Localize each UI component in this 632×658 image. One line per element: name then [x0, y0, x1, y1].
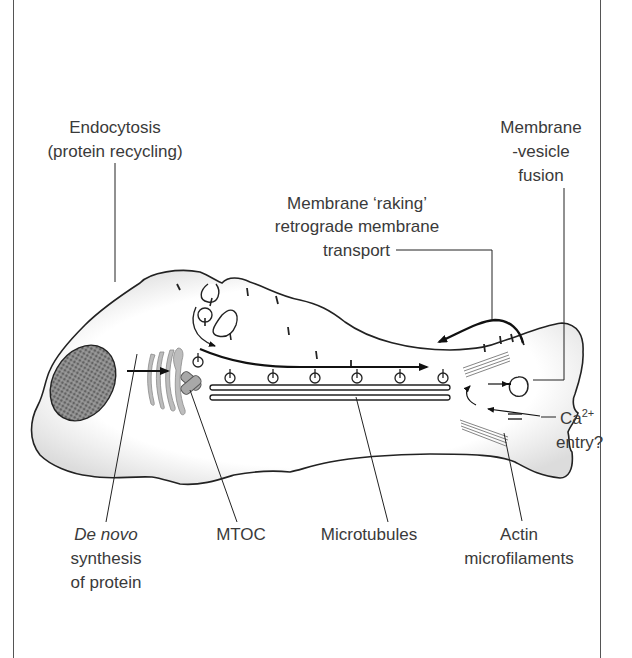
label-membrane-vesicle-fusion: Membrane -vesicle fusion	[500, 118, 581, 185]
label-endocytosis: Endocytosis (protein recycling)	[47, 118, 182, 161]
vesicle-fusion-site	[509, 377, 528, 397]
label-calcium-line2: entry?	[556, 433, 603, 452]
label-calcium-ion: Ca2+	[560, 407, 594, 428]
cell-diagram: Endocytosis (protein recycling) Membrane…	[0, 0, 632, 658]
label-fusion-line3: fusion	[518, 166, 563, 185]
label-fusion-line2: -vesicle	[512, 142, 570, 161]
label-de-novo-line3: of protein	[71, 573, 142, 592]
label-actin-line2: microfilaments	[464, 549, 574, 568]
label-endocytosis-line1: Endocytosis	[69, 118, 161, 137]
label-de-novo: De novo synthesis of protein	[71, 525, 142, 592]
label-raking-line2: retrograde membrane	[275, 217, 439, 236]
label-raking-line1: Membrane ‘raking’	[287, 194, 427, 213]
label-actin: Actin microfilaments	[464, 525, 574, 568]
label-endocytosis-line2: (protein recycling)	[47, 142, 182, 161]
label-de-novo-line2: synthesis	[71, 549, 142, 568]
endosome-marker	[230, 333, 231, 340]
label-actin-line1: Actin	[500, 525, 538, 544]
label-fusion-line1: Membrane	[500, 118, 581, 137]
label-raking-line3: transport	[323, 241, 390, 260]
label-microtubules: Microtubules	[321, 525, 417, 544]
label-mtoc: MTOC	[216, 525, 266, 544]
label-de-novo-line1: De novo	[74, 525, 137, 544]
